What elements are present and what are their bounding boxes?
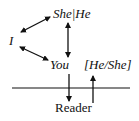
arrow-i-she-he — [21, 17, 50, 32]
node-you: You — [50, 58, 69, 72]
node-he-she-bracketed: [He/She] — [84, 58, 132, 72]
node-she-he: She|He — [53, 7, 91, 21]
arrow-i-you — [20, 47, 48, 60]
node-reader: Reader — [55, 101, 92, 115]
node-i: I — [9, 34, 13, 48]
